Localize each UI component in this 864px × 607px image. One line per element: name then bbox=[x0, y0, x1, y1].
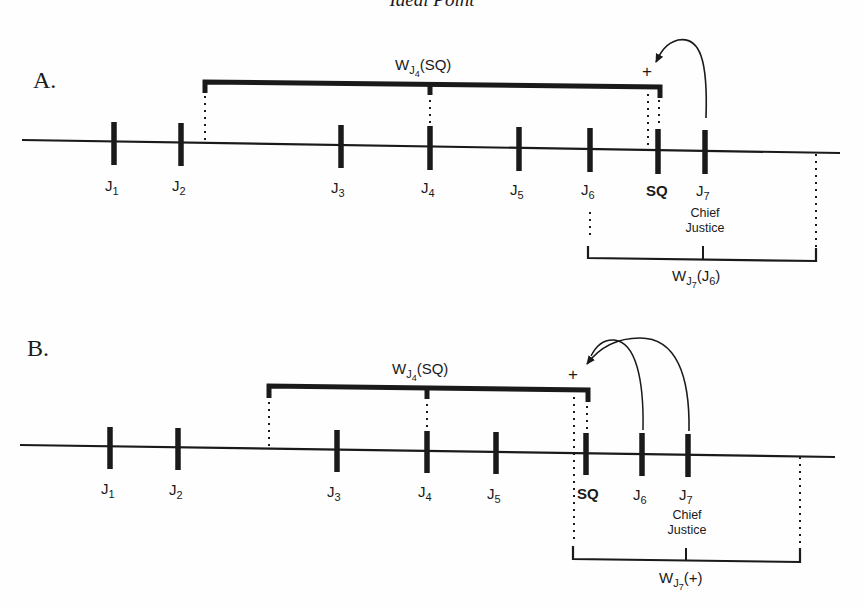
panel-b-chief-justice-label: ChiefJustice bbox=[662, 508, 712, 538]
panel-a-label-j3: J3 bbox=[331, 180, 345, 199]
panel-a-winset-j7-label: WJ7(J6) bbox=[672, 268, 720, 290]
panel-b-label-sq: SQ bbox=[577, 486, 599, 501]
panel-b-label-j5: J5 bbox=[487, 486, 501, 505]
panel-b-label-j1: J1 bbox=[101, 481, 115, 500]
panel-b-label-j2: J2 bbox=[169, 482, 183, 501]
panel-b-label-j3: J3 bbox=[327, 484, 341, 503]
panel-b-proposal-arrow-j7 bbox=[587, 338, 689, 431]
panel-b-label-j7: J7 bbox=[679, 487, 693, 506]
panel-b-proposal-marker: + bbox=[568, 366, 578, 383]
panel-b-label-j6: J6 bbox=[633, 487, 647, 506]
panel-a-label-j6: J6 bbox=[581, 182, 595, 201]
panel-b-proposal-arrow-j6 bbox=[591, 340, 643, 430]
panel-a-winset-j4-label: WJ4(SQ) bbox=[395, 57, 451, 79]
panel-a-label-j4: J4 bbox=[421, 180, 435, 199]
panel-a-chief-justice-label: ChiefJustice bbox=[680, 206, 730, 236]
panel-a-proposal-marker: + bbox=[642, 63, 652, 80]
spatial-model-figure: Ideal Point bbox=[0, 0, 864, 607]
diagram-lines bbox=[0, 0, 864, 607]
panel-b-letter: B. bbox=[27, 336, 49, 360]
panel-a-label-j2: J2 bbox=[172, 178, 186, 197]
panel-b-winset-j4-label: WJ4(SQ) bbox=[392, 361, 448, 383]
panel-a-label-j5: J5 bbox=[510, 182, 524, 201]
panel-a-proposal-arrow bbox=[656, 40, 706, 118]
panel-a-label-j1: J1 bbox=[105, 178, 119, 197]
panel-a-letter: A. bbox=[33, 68, 56, 92]
panel-a-label-sq: SQ bbox=[646, 183, 668, 198]
panel-a-label-j7: J7 bbox=[696, 183, 710, 202]
panel-b-label-j4: J4 bbox=[418, 484, 432, 503]
panel-b-winset-j7-label: WJ7(+) bbox=[659, 570, 702, 592]
